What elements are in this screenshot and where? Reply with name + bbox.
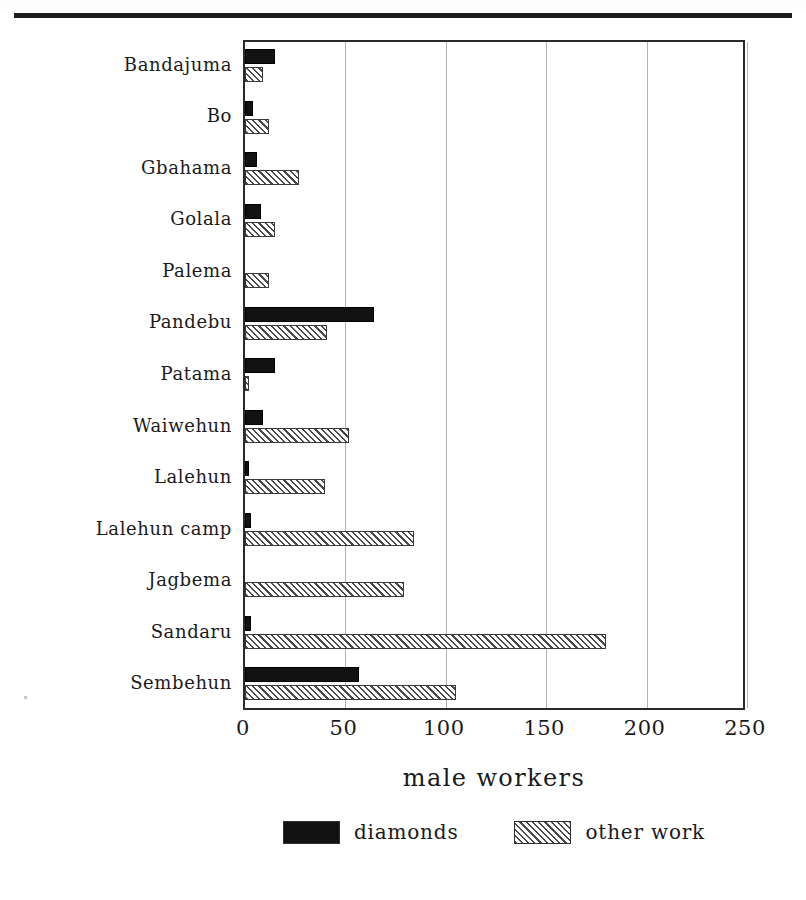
chart-legend: diamondsother work <box>243 820 745 844</box>
bar-group <box>245 145 743 197</box>
bar-other-work-bo <box>245 119 269 134</box>
bar-other-work-golala <box>245 222 275 237</box>
bar-other-work-palema <box>245 273 269 288</box>
y-axis-label-patama: Patama <box>0 363 232 384</box>
y-axis-label-sembehun: Sembehun <box>0 672 232 693</box>
x-axis-title: male workers <box>243 764 745 792</box>
legend-label-other-work: other work <box>585 820 705 844</box>
bar-other-work-sembehun <box>245 685 456 700</box>
y-axis-label-palema: Palema <box>0 260 232 281</box>
bar-group <box>245 557 743 609</box>
bar-other-work-bandajuma <box>245 67 263 82</box>
y-axis-label-lalehun: Lalehun <box>0 466 232 487</box>
page-horizontal-rule <box>14 13 792 18</box>
bar-group <box>245 248 743 300</box>
bar-diamonds-sembehun <box>245 667 359 682</box>
legend-label-diamonds: diamonds <box>354 820 458 844</box>
x-axis-tick-labels: 050100150200250 <box>243 716 745 750</box>
bar-chart-figure: BandajumaBoGbahamaGolalaPalemaPandebuPat… <box>0 24 806 894</box>
legend-entry-diamonds: diamonds <box>283 820 458 844</box>
y-axis-label-pandebu: Pandebu <box>0 311 232 332</box>
bar-other-work-pandebu <box>245 325 327 340</box>
bar-diamonds-lalehun <box>245 461 249 476</box>
y-axis-label-bandajuma: Bandajuma <box>0 54 232 75</box>
x-tick-label-250: 250 <box>724 716 766 740</box>
y-axis-label-golala: Golala <box>0 208 232 229</box>
y-axis-category-labels: BandajumaBoGbahamaGolalaPalemaPandebuPat… <box>0 40 232 710</box>
bar-other-work-gbahama <box>245 170 299 185</box>
x-tick-label-100: 100 <box>423 716 465 740</box>
x-tick-label-200: 200 <box>624 716 666 740</box>
bar-group <box>245 42 743 94</box>
page-header-strip <box>0 0 806 11</box>
y-axis-label-jagbema: Jagbema <box>0 569 232 590</box>
plot-area <box>243 40 745 710</box>
y-axis-label-lalehun-camp: Lalehun camp <box>0 518 232 539</box>
bar-other-work-waiwehun <box>245 428 349 443</box>
bar-diamonds-gbahama <box>245 152 257 167</box>
y-axis-label-gbahama: Gbahama <box>0 157 232 178</box>
bar-diamonds-bandajuma <box>245 49 275 64</box>
bar-group <box>245 660 743 712</box>
bar-diamonds-pandebu <box>245 307 374 322</box>
bar-group <box>245 506 743 558</box>
bar-group <box>245 197 743 249</box>
legend-swatch-diamonds <box>283 821 340 844</box>
y-axis-label-waiwehun: Waiwehun <box>0 415 232 436</box>
bar-group <box>245 300 743 352</box>
bar-other-work-patama <box>245 376 249 391</box>
bar-diamonds-waiwehun <box>245 410 263 425</box>
bar-other-work-jagbema <box>245 582 404 597</box>
scan-artifact <box>24 696 27 699</box>
bar-group <box>245 403 743 455</box>
bar-other-work-lalehun-camp <box>245 531 414 546</box>
legend-swatch-other-work <box>514 821 571 844</box>
y-axis-label-sandaru: Sandaru <box>0 621 232 642</box>
bar-diamonds-lalehun-camp <box>245 513 251 528</box>
bar-other-work-sandaru <box>245 634 606 649</box>
bar-diamonds-sandaru <box>245 616 251 631</box>
bars-layer <box>245 42 743 708</box>
legend-entry-other-work: other work <box>514 820 705 844</box>
x-tick-label-50: 50 <box>330 716 358 740</box>
bar-group <box>245 609 743 661</box>
bar-group <box>245 351 743 403</box>
bar-diamonds-bo <box>245 101 253 116</box>
bar-diamonds-golala <box>245 204 261 219</box>
bar-other-work-lalehun <box>245 479 325 494</box>
bar-diamonds-patama <box>245 358 275 373</box>
x-tick-label-150: 150 <box>523 716 565 740</box>
y-axis-label-bo: Bo <box>0 105 232 126</box>
x-tick-label-0: 0 <box>236 716 250 740</box>
bar-group <box>245 454 743 506</box>
bar-group <box>245 94 743 146</box>
gridline-250 <box>747 42 748 708</box>
